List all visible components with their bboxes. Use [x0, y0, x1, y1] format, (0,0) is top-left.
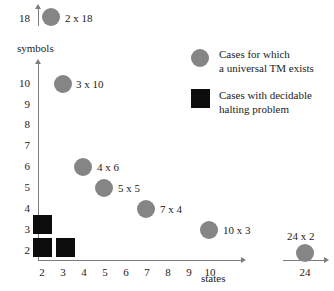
x-axis-right-arrowhead: [324, 257, 329, 263]
data-point-label-2x18: 2 x 18: [65, 13, 93, 24]
data-point-label-3x10: 3 x 10: [76, 79, 104, 90]
data-point-4x6: [74, 158, 92, 176]
x-tick-label-24: 24: [294, 267, 316, 278]
legend-label-decidable-halting-line2: halting problem: [219, 102, 289, 116]
data-point-label-24x2: 24 x 2: [287, 231, 315, 242]
data-point-label-10x3: 10 x 3: [223, 225, 251, 236]
data-point-square-3x2: [56, 238, 75, 257]
y-tick-label-4: 4: [8, 203, 30, 214]
y-tick-label-10: 10: [8, 78, 30, 89]
data-point-square-2x2: [33, 238, 52, 257]
data-point-square-2x3: [33, 215, 52, 234]
scatter-plot-figure: 18 2 x 18 symbols 10 9 8 7 6 5 4 3 2 2 3…: [0, 0, 334, 291]
x-tick-label-6: 6: [115, 267, 137, 278]
data-point-3x10: [54, 75, 72, 93]
x-axis-arrowhead: [241, 257, 246, 263]
x-tick-label-2: 2: [31, 267, 53, 278]
data-point-7x4: [137, 200, 155, 218]
x-tick-label-7: 7: [136, 267, 158, 278]
y-axis-top-segment: [38, 8, 39, 26]
x-axis-line: [38, 260, 241, 261]
y-tick-label-3: 3: [8, 224, 30, 235]
y-tick-label-6: 6: [8, 161, 30, 172]
x-tick-label-4: 4: [73, 267, 95, 278]
data-point-5x5: [95, 179, 113, 197]
legend-square-icon: [191, 89, 210, 108]
x-tick-label-8: 8: [157, 267, 179, 278]
legend-label-universal-tm-line2: a universal TM exists: [219, 61, 314, 75]
y-tick-label-18: 18: [8, 13, 30, 24]
y-tick-label-7: 7: [8, 140, 30, 151]
y-tick-label-9: 9: [8, 99, 30, 110]
data-point-label-4x6: 4 x 6: [97, 162, 119, 173]
y-tick-label-8: 8: [8, 119, 30, 130]
x-tick-label-3: 3: [52, 267, 74, 278]
data-point-2x18: [42, 8, 60, 26]
data-point-label-5x5: 5 x 5: [118, 183, 140, 194]
y-axis-title: symbols: [17, 42, 54, 54]
legend-label-universal-tm-line1: Cases for which: [219, 47, 290, 61]
legend-circle-icon: [191, 49, 209, 67]
x-tick-label-5: 5: [94, 267, 116, 278]
data-point-label-7x4: 7 x 4: [160, 204, 182, 215]
y-tick-label-5: 5: [8, 182, 30, 193]
data-point-10x3: [200, 221, 218, 239]
legend-label-decidable-halting-line1: Cases with decidable: [219, 88, 312, 102]
y-tick-label-2: 2: [8, 245, 30, 256]
x-axis-title: states: [201, 272, 225, 284]
x-tick-label-9: 9: [178, 267, 200, 278]
data-point-24x2: [296, 244, 314, 262]
